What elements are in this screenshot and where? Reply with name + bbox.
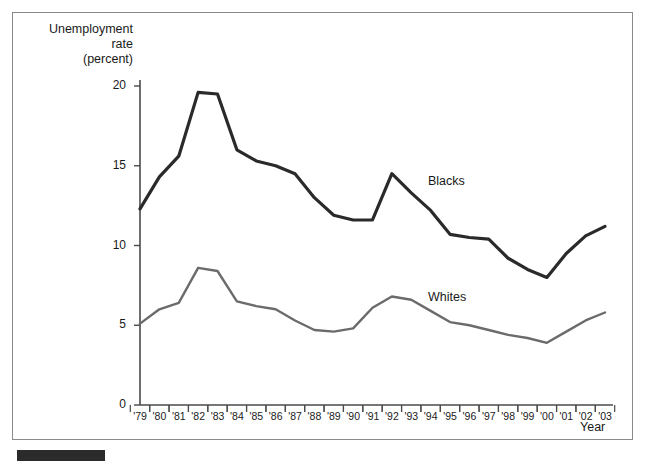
series-label-blacks: Blacks [428, 174, 465, 188]
x-tick-label: '03 [593, 410, 617, 422]
y-tick-label: 5 [100, 317, 126, 331]
y-tick-label: 10 [100, 238, 126, 252]
chart-plot-area [0, 0, 647, 463]
y-tick-label: 15 [100, 158, 126, 172]
y-tick-label: 20 [100, 78, 126, 92]
x-axis-title: Year [580, 420, 605, 434]
series-line-whites [140, 268, 605, 343]
y-tick-label: 0 [100, 397, 126, 411]
series-label-whites: Whites [428, 290, 466, 304]
series-line-blacks [140, 92, 605, 277]
chart-figure: Unemployment rate (percent) Blacks White… [0, 0, 647, 463]
footer-bar [17, 450, 105, 461]
